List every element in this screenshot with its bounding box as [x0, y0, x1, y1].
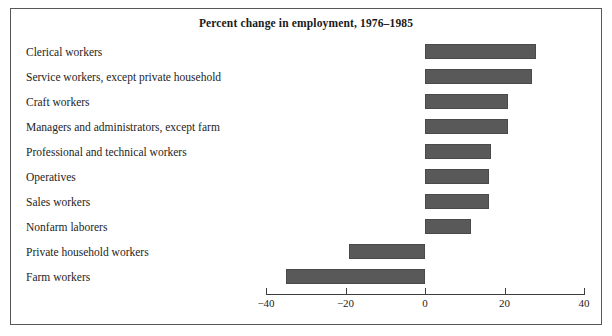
plot-area: Clerical workersService workers, except … — [11, 9, 603, 326]
bar — [425, 44, 536, 59]
bar-row: Professional and technical workers — [11, 141, 603, 166]
bar-row: Managers and administrators, except farm — [11, 116, 603, 141]
x-axis-tick-label: 0 — [405, 297, 445, 309]
bar — [349, 244, 425, 259]
bar-row: Farm workers — [11, 266, 603, 291]
bar-category-label: Operatives — [26, 170, 76, 185]
bar-category-label: Nonfarm laborers — [26, 220, 107, 235]
x-axis-tick-label: −20 — [326, 297, 366, 309]
x-axis-tick — [346, 288, 347, 295]
x-axis-tick-label: 40 — [564, 297, 604, 309]
bar-category-label: Private household workers — [26, 245, 149, 260]
bar-category-label: Clerical workers — [26, 45, 102, 60]
x-axis-tick — [425, 288, 426, 295]
bar-category-label: Managers and administrators, except farm — [26, 120, 220, 135]
bar — [425, 119, 508, 134]
bar — [425, 169, 489, 184]
bar-category-label: Farm workers — [26, 270, 90, 285]
bar-row: Clerical workers — [11, 41, 603, 66]
bar-category-label: Craft workers — [26, 95, 90, 110]
bar-row: Operatives — [11, 166, 603, 191]
bar-row: Private household workers — [11, 241, 603, 266]
x-axis-tick-label: 20 — [485, 297, 525, 309]
bar-row: Craft workers — [11, 91, 603, 116]
x-axis: −40−2002040 — [11, 294, 603, 326]
bar — [425, 194, 489, 209]
x-axis-tick — [266, 288, 267, 295]
x-axis-tick — [584, 288, 585, 295]
bar-row: Service workers, except private househol… — [11, 66, 603, 91]
bar-category-label: Service workers, except private househol… — [26, 70, 221, 85]
bar-row: Sales workers — [11, 191, 603, 216]
bar-category-label: Professional and technical workers — [26, 145, 187, 160]
chart-frame: Percent change in employment, 1976–1985 … — [10, 8, 602, 325]
bar — [425, 94, 508, 109]
bar — [425, 219, 471, 234]
x-axis-tick — [505, 288, 506, 295]
bar — [286, 269, 425, 284]
bar-row: Nonfarm laborers — [11, 216, 603, 241]
bar-category-label: Sales workers — [26, 195, 90, 210]
x-axis-tick-label: −40 — [246, 297, 286, 309]
bar — [425, 69, 532, 84]
bar — [425, 144, 491, 159]
